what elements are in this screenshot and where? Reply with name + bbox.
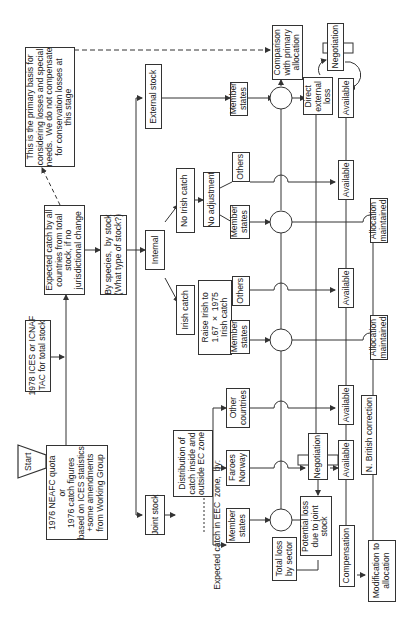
no-irish-catch-box: No Irish catch (176, 168, 195, 233)
comparison-box: Comparison with primary allocation (272, 25, 303, 80)
neafc-quota-box: 1976 NEAFC quota or 1976 catch figures b… (46, 445, 108, 540)
other-countries-box: Other countries (226, 388, 250, 428)
raise-irish-box: Raise Irish to 1.67 × 1975 Irish catch (198, 280, 232, 355)
allocation-maintained-box-2: Allocation maintained (370, 315, 388, 360)
n-british-correction-box: N. British correction (361, 395, 377, 475)
available-box-3: Available (338, 385, 354, 425)
member-states-box-1: Member states (230, 205, 250, 239)
expected-catch-box: Expected catch by all countries from tot… (44, 205, 85, 295)
member-states-box-2: Member states (230, 320, 250, 354)
internal-box: Internal (145, 230, 165, 270)
modification-box: Modification to allocation (368, 540, 396, 602)
available-box-2: Available (338, 268, 354, 308)
external-stock-box: External stock (145, 64, 162, 129)
direct-external-loss-box: Direct external loss (303, 77, 333, 115)
potential-loss-box: Potential loss due to joint stock (300, 496, 332, 556)
start-terminal: Start (14, 445, 44, 478)
total-loss-box: Total loss by sector (272, 537, 297, 581)
faroes-norway-box: Faroes Norway (226, 450, 250, 486)
distribution-box: Distribution of catch inside and outside… (173, 430, 213, 497)
tac-box: 1978 ICES or ICNAF TAC for total stock (25, 320, 51, 392)
by-species-box: By species, by stock (What type of stock… (100, 215, 127, 295)
joint-stock-box: Joint stock (145, 495, 165, 535)
flowchart-canvas: Start 1976 NEAFC quota or 1976 catch fig… (0, 0, 400, 622)
available-box-external: Available (338, 78, 354, 118)
available-box-1: Available (338, 160, 354, 200)
others-box-2: Others (232, 276, 250, 306)
available-box-joint: Available (338, 440, 354, 480)
expected-eec-label: Expected catch in EEC zone, by: (208, 440, 228, 610)
compensation-box: Compensation (339, 525, 355, 587)
allocation-maintained-box-1: Allocation maintained (370, 198, 388, 243)
irish-catch-box: Irish catch (176, 285, 195, 335)
member-states-box-joint: Member states (226, 508, 250, 543)
others-box-1: Others (232, 152, 250, 182)
member-states-box-external: Member states (230, 82, 248, 116)
negotiation-box-external: Negotiation (327, 23, 344, 71)
negotiation-box-joint: Negotiation (308, 433, 328, 480)
no-adjustment-box: No adjustment (203, 172, 220, 227)
primary-basis-note: This is the primary basis for considerin… (25, 47, 75, 167)
